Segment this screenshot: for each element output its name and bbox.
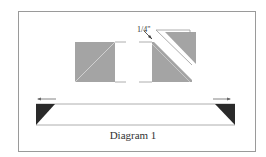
left-square xyxy=(75,42,126,82)
diagram-caption: Diagram 1 xyxy=(0,129,266,141)
right-arrow-icon xyxy=(213,98,231,101)
right-square-cut xyxy=(139,30,196,82)
long-strip xyxy=(36,104,235,125)
measurement-label: 1/4" xyxy=(137,25,151,34)
left-arrow-icon xyxy=(37,98,56,101)
